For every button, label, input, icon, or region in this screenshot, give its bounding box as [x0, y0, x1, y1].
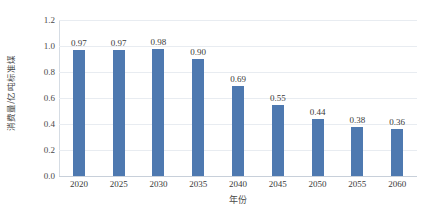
bar-value-label: 0.97 [71, 39, 87, 48]
bar[interactable]: 0.98 [152, 49, 164, 176]
bar[interactable]: 0.97 [113, 50, 125, 176]
bar-value-label: 0.97 [111, 39, 127, 48]
x-axis-tick-label: 2020 [59, 178, 99, 192]
bar[interactable]: 0.90 [192, 59, 204, 176]
bar-value-label: 0.55 [270, 94, 286, 103]
bar-slot: 0.38 [337, 20, 377, 176]
bar[interactable]: 0.69 [232, 86, 244, 176]
bar-value-label: 0.36 [389, 118, 405, 127]
bar[interactable]: 0.55 [272, 105, 284, 177]
y-axis-tick-label: 0.4 [29, 120, 55, 129]
plot-area: 0.970.970.980.900.690.550.440.380.36 [59, 20, 417, 176]
x-axis-tick-label: 2040 [218, 178, 258, 192]
y-axis-tick-label: 1.0 [29, 42, 55, 51]
y-axis-tick-label: 0.8 [29, 68, 55, 77]
x-axis-tick-label: 2050 [298, 178, 338, 192]
bar-chart: 消费量/亿吨标准煤 0.00.20.40.60.81.01.2 0.970.97… [0, 0, 425, 219]
x-axis-tick-label: 2060 [377, 178, 417, 192]
gridline [59, 176, 417, 177]
bar-slot: 0.55 [258, 20, 298, 176]
x-axis-tick-labels: 202020252030203520402045205020552060 [59, 178, 417, 192]
bar[interactable]: 0.97 [73, 50, 85, 176]
bar-slot: 0.90 [178, 20, 218, 176]
bar[interactable]: 0.44 [312, 119, 324, 176]
y-axis-tick-labels: 0.00.20.40.60.81.01.2 [26, 0, 55, 219]
bar[interactable]: 0.36 [391, 129, 403, 176]
bar-slot: 0.69 [218, 20, 258, 176]
x-axis-tick-label: 2030 [139, 178, 179, 192]
bar-slot: 0.97 [99, 20, 139, 176]
bar-slot: 0.98 [139, 20, 179, 176]
bar-slot: 0.44 [298, 20, 338, 176]
bar-slot: 0.36 [377, 20, 417, 176]
x-axis-tick-label: 2035 [178, 178, 218, 192]
bar-value-label: 0.98 [151, 38, 167, 47]
bar-value-label: 0.38 [349, 116, 365, 125]
y-axis-tick-label: 0.2 [29, 146, 55, 155]
bar-value-label: 0.44 [310, 108, 326, 117]
bar-series: 0.970.970.980.900.690.550.440.380.36 [59, 20, 417, 176]
y-axis-tick-label: 0.0 [29, 172, 55, 181]
bar-slot: 0.97 [59, 20, 99, 176]
y-axis-title-text: 消费量/亿吨标准煤 [4, 54, 16, 131]
y-axis-tick-label: 1.2 [29, 16, 55, 25]
x-axis-tick-label: 2045 [258, 178, 298, 192]
bar-value-label: 0.69 [230, 75, 246, 84]
y-axis-tick-label: 0.6 [29, 94, 55, 103]
x-axis-title: 年份 [59, 193, 417, 206]
x-axis-tick-label: 2025 [99, 178, 139, 192]
bar[interactable]: 0.38 [351, 127, 363, 176]
bar-value-label: 0.90 [190, 48, 206, 57]
x-axis-tick-label: 2055 [337, 178, 377, 192]
y-axis-title: 消费量/亿吨标准煤 [0, 0, 20, 185]
